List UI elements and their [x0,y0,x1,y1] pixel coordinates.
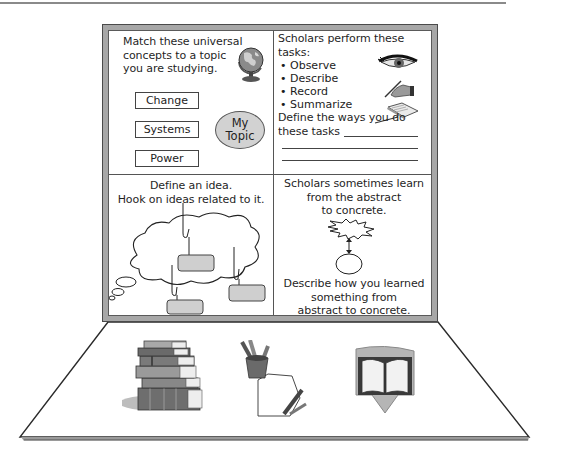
hooked-idea-box-1 [178,255,214,271]
starburst-arrow-circle [324,219,384,275]
concept-box-systems: Systems [135,121,199,138]
task-list: Observe Describe Record Summarize [279,59,352,111]
quadrant-universal-concepts: Match these universal concepts to a topi… [109,31,273,174]
answer-line-1[interactable] [344,136,418,137]
board-panel: Match these universal concepts to a topi… [108,30,432,316]
answer-line-3[interactable] [282,160,418,161]
task-item: Describe [279,72,352,85]
bulletin-board: Match these universal concepts to a topi… [102,24,438,322]
task-item: Summarize [279,98,352,111]
my-topic-ellipse: My Topic [215,111,265,149]
stack-of-books-icon [120,340,210,415]
open-book-shield-icon [352,345,418,415]
hooked-idea-box-2 [229,285,265,301]
paper-sheet [258,374,300,416]
quadrant-define-idea: Define an idea. Hook on ideas related to… [109,175,273,317]
globe-icon [235,44,267,84]
task-item: Record [279,85,352,98]
pencil-cup-and-paper-icon [232,340,312,420]
thought-cloud-with-hooks [109,203,273,315]
answer-line-2[interactable] [282,148,418,149]
abstract-prompt: Scholars sometimes learn from the abstra… [274,177,434,218]
quadrant-scholar-tasks: Scholars perform these tasks: Observe De… [274,31,439,174]
concrete-circle [336,254,362,274]
quadrant-abstract-to-concrete: Scholars sometimes learn from the abstra… [274,175,439,317]
define-ways-prompt: Define the ways you do these tasks [278,111,406,138]
hooked-idea-box-3 [167,300,203,314]
describe-prompt: Describe how you learned something from … [274,277,434,318]
eye-icon [377,53,419,71]
task-item: Observe [279,59,352,72]
concepts-prompt: Match these universal concepts to a topi… [123,35,242,76]
starburst-icon [328,219,374,239]
writing-hand-icon [383,77,417,99]
idea-prompt: Define an idea. Hook on ideas related to… [109,179,273,206]
concept-box-power: Power [135,150,199,167]
concept-box-change: Change [135,92,199,109]
